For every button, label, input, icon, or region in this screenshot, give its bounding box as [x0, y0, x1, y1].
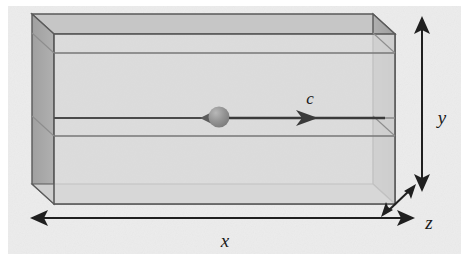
dimension-x-label: x: [220, 230, 230, 251]
moving-particle: [209, 107, 230, 128]
figure-canvas: c x y z: [0, 0, 469, 266]
dimension-z-label: z: [424, 212, 433, 233]
physics-figure-rectangular-cavity: c x y z: [0, 0, 469, 266]
velocity-label-c: c: [306, 89, 314, 108]
dimension-y-label: y: [436, 107, 447, 128]
box-top-face: [32, 14, 395, 34]
